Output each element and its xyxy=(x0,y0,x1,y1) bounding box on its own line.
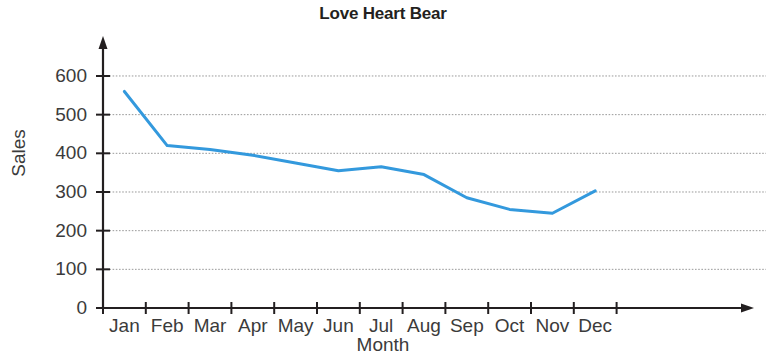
y-axis-tick-label: 600 xyxy=(27,66,87,85)
line-chart: Love Heart Bear Sales Month 010020030040… xyxy=(0,0,766,363)
y-axis-tick-label: 100 xyxy=(27,259,87,278)
data-series-line xyxy=(124,91,595,213)
y-axis-tick-label: 0 xyxy=(27,298,87,317)
x-axis-tick-label: Dec xyxy=(565,316,625,336)
y-axis-tick-label: 200 xyxy=(27,221,87,240)
plot-area xyxy=(0,0,766,363)
gridlines xyxy=(103,76,766,269)
x-axis-arrow-icon xyxy=(741,304,754,313)
y-axis-arrow-icon xyxy=(99,36,108,49)
y-axis-tick-label: 300 xyxy=(27,182,87,201)
y-axis-tick-label: 400 xyxy=(27,143,87,162)
y-axis-tick-label: 500 xyxy=(27,105,87,124)
